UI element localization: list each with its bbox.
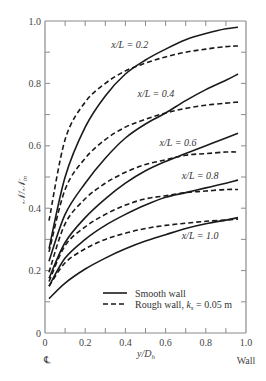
y-tick-label: 0.4 [29, 203, 42, 214]
chart: 00.20.40.60.81.000.20.40.60.81.0 x/L = 0… [0, 0, 266, 381]
curve-label: x/L = 0.6 [159, 137, 197, 148]
curve-label: x/L = 0.2 [110, 39, 148, 50]
curve-label: x/L = 0.8 [181, 170, 219, 181]
x-axis-title: y/Dh [136, 348, 155, 361]
smooth-wall-curve [49, 27, 238, 249]
x-tick-label: 0.6 [159, 337, 172, 348]
curves [49, 27, 238, 299]
y-tick-label: 0.2 [29, 265, 42, 276]
x-tick-label: 1.0 [240, 337, 253, 348]
wall-label: Wall [237, 355, 256, 366]
rough-wall-curve [49, 219, 238, 286]
legend: Smooth wall Rough wall, ks = 0.05 m [103, 288, 232, 312]
y-tick-label: 0.8 [29, 78, 42, 89]
y-axis-title: 𝒩/𝒩in [16, 175, 29, 204]
curve-labels: x/L = 0.2x/L = 0.4x/L = 0.6x/L = 0.8x/L … [110, 39, 218, 242]
y-tick-label: 0 [36, 328, 41, 339]
x-tick-label: 0.2 [79, 337, 92, 348]
x-tick-label: 0 [43, 337, 48, 348]
y-tick-label: 0.6 [29, 140, 42, 151]
centerline-label: ℄ [43, 354, 51, 365]
curve-label: x/L = 1.0 [181, 230, 219, 241]
x-tick-label: 0.8 [200, 337, 213, 348]
x-tick-label: 0.4 [119, 337, 132, 348]
curve-label: x/L = 0.4 [136, 88, 174, 99]
legend-smooth-label: Smooth wall [135, 288, 186, 299]
y-tick-label: 1.0 [29, 16, 42, 27]
legend-rough-label: Rough wall, ks = 0.05 m [135, 299, 232, 312]
